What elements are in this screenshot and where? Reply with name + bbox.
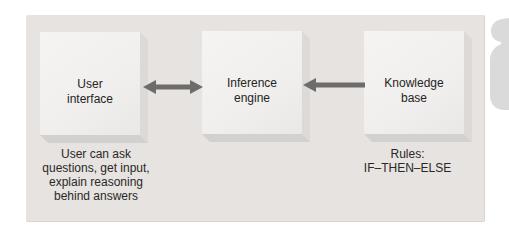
box-user-interface: User interface <box>40 32 148 143</box>
box-face: Knowledge base <box>364 31 464 134</box>
page-corner-graphic <box>489 18 509 113</box>
box-inference-engine: Inference engine <box>202 31 310 142</box>
bidirectional-arrow-icon <box>143 79 203 95</box>
diagram-canvas: User interface Inference engine Knowledg… <box>0 0 509 232</box>
caption-user-interface: User can ask questions, get input, expla… <box>16 147 176 203</box>
box-label-inference-engine: Inference engine <box>227 76 277 106</box>
caption-knowledge-base: Rules: IF–THEN–ELSE <box>330 147 485 175</box>
left-arrow-icon <box>303 77 365 93</box>
box-face: User interface <box>40 32 140 135</box>
box-face: Inference engine <box>202 31 302 134</box>
box-label-user-interface: User interface <box>67 77 113 107</box>
box-label-knowledge-base: Knowledge base <box>384 76 443 106</box>
box-knowledge-base: Knowledge base <box>364 31 472 142</box>
